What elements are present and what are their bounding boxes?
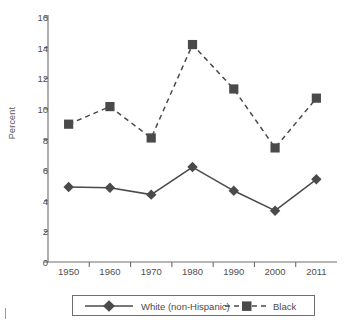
legend-marker-square-black <box>242 301 252 311</box>
y-axis-tick-label: 16 <box>26 12 48 23</box>
y-axis-tick-label: 2 <box>26 226 48 237</box>
x-axis-tick-label: 1950 <box>58 266 79 277</box>
y-axis-tick-label: 8 <box>26 134 48 145</box>
y-axis-tick-label: 12 <box>26 73 48 84</box>
data-point-marker <box>105 183 115 193</box>
data-point-marker <box>312 94 321 103</box>
y-axis-tick-label: 10 <box>26 103 48 114</box>
data-point-marker <box>187 162 197 172</box>
y-axis-tick-label: 14 <box>26 42 48 53</box>
data-point-marker <box>64 120 73 129</box>
y-axis-tick-label: 4 <box>26 195 48 206</box>
x-axis-tick-label: 1980 <box>182 266 203 277</box>
y-axis-tick-labels: 0246810121416 <box>22 0 48 327</box>
data-point-marker <box>147 133 156 142</box>
data-point-marker <box>146 189 156 199</box>
legend-label-white: White (non-Hispanic) <box>141 300 230 311</box>
x-axis-tick-label: 2000 <box>264 266 285 277</box>
data-point-marker <box>188 40 197 49</box>
series-line-white <box>69 167 317 211</box>
page-corner-mark <box>5 308 6 319</box>
chart-legend: White (non-Hispanic) Black <box>72 295 315 316</box>
x-axis-tick-label: 1970 <box>141 266 162 277</box>
data-point-marker <box>229 84 238 93</box>
series-line-black <box>69 45 317 148</box>
plot-area <box>0 0 347 327</box>
x-axis-tick-label: 1990 <box>223 266 244 277</box>
data-point-marker <box>270 143 279 152</box>
x-axis-tick-label: 2011 <box>306 266 326 277</box>
data-point-marker <box>229 186 239 196</box>
y-axis-label: Percent <box>7 93 17 153</box>
legend-label-black: Black <box>273 300 296 311</box>
data-point-marker <box>63 182 73 192</box>
legend-marker-diamond-white <box>103 300 115 312</box>
data-point-marker <box>105 102 114 111</box>
chart-container: Percent 0246810121416 195019601970198019… <box>0 0 347 327</box>
y-axis-tick-label: 6 <box>26 165 48 176</box>
x-axis-tick-label: 1960 <box>99 266 120 277</box>
y-axis-tick-label: 0 <box>26 257 48 268</box>
